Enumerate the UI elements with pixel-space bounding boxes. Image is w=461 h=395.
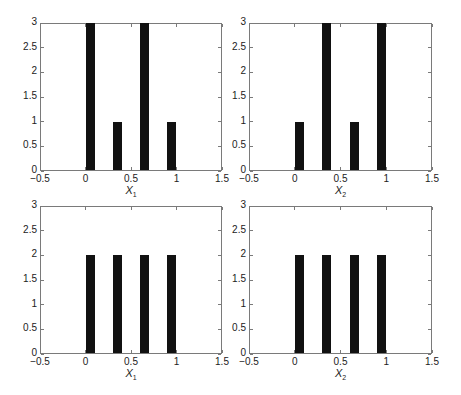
x-tick-mark [85, 350, 86, 353]
y-tick-mark [250, 23, 253, 24]
x-tick-label: 0.5 [326, 174, 356, 184]
histogram-bar [350, 122, 359, 170]
histogram-bar [113, 122, 122, 170]
y-tick-mark [428, 304, 431, 305]
x-tick-mark [432, 350, 433, 353]
y-tick-mark [428, 329, 431, 330]
y-tick-mark [41, 206, 44, 207]
y-tick-mark [250, 72, 253, 73]
x-tick-mark [294, 207, 295, 210]
y-tick-label: 0.5 [9, 140, 37, 150]
y-tick-label: 3 [9, 200, 37, 210]
x-tick-label: 0 [280, 174, 310, 184]
y-tick-mark [41, 23, 44, 24]
x-tick-mark [432, 24, 433, 27]
y-tick-mark [428, 255, 431, 256]
x-tick-mark [249, 207, 250, 210]
y-tick-label: 2.5 [9, 225, 37, 235]
y-tick-mark [41, 72, 44, 73]
y-tick-mark [41, 97, 44, 98]
y-tick-mark [41, 230, 44, 231]
axes-frame [40, 206, 222, 354]
axes-frame [249, 23, 432, 171]
histogram-bar [377, 255, 386, 353]
x-tick-mark [131, 24, 132, 27]
x-tick-label: 1.5 [207, 174, 237, 184]
x-axis-label-subscript: 1 [133, 191, 137, 198]
y-tick-label: 2.5 [218, 42, 246, 52]
y-tick-label: 0.5 [218, 323, 246, 333]
x-tick-mark [40, 207, 41, 210]
y-tick-mark [41, 255, 44, 256]
x-tick-mark [340, 167, 341, 170]
x-tick-label: −0.5 [25, 174, 55, 184]
x-tick-mark [432, 207, 433, 210]
y-tick-mark [428, 354, 431, 355]
x-tick-label: 1 [371, 357, 401, 367]
y-tick-label: 1.5 [218, 274, 246, 284]
x-tick-mark [294, 167, 295, 170]
x-tick-mark [176, 24, 177, 27]
x-axis-label: X1 [111, 367, 151, 381]
y-tick-label: 1.5 [218, 91, 246, 101]
x-tick-label: 1.5 [207, 357, 237, 367]
histogram-bar [167, 255, 176, 353]
x-tick-label: −0.5 [234, 357, 264, 367]
y-tick-label: 1 [9, 299, 37, 309]
y-tick-mark [428, 230, 431, 231]
y-tick-label: 2 [9, 66, 37, 76]
y-tick-label: 1 [218, 116, 246, 126]
histogram-bar [350, 255, 359, 353]
x-tick-label: 1 [162, 174, 192, 184]
x-tick-label: −0.5 [25, 357, 55, 367]
x-tick-mark [340, 350, 341, 353]
x-axis-label: X2 [321, 367, 361, 381]
x-tick-mark [249, 350, 250, 353]
y-tick-label: 0.5 [218, 140, 246, 150]
y-tick-mark [250, 280, 253, 281]
y-tick-mark [250, 230, 253, 231]
y-tick-mark [41, 146, 44, 147]
y-tick-label: 3 [218, 200, 246, 210]
y-tick-mark [428, 171, 431, 172]
y-tick-label: 2 [218, 66, 246, 76]
x-tick-mark [249, 167, 250, 170]
y-tick-mark [250, 206, 253, 207]
y-tick-label: 2.5 [9, 42, 37, 52]
x-tick-label: 0 [71, 174, 101, 184]
x-tick-mark [85, 24, 86, 27]
y-tick-mark [250, 171, 253, 172]
x-axis-label-subscript: 2 [342, 374, 346, 381]
histogram-bar [140, 23, 149, 170]
y-tick-label: 0.5 [9, 323, 37, 333]
x-tick-mark [85, 207, 86, 210]
y-tick-mark [250, 255, 253, 256]
y-tick-mark [428, 72, 431, 73]
y-tick-mark [41, 171, 44, 172]
x-tick-mark [40, 24, 41, 27]
x-axis-label-base: X [125, 184, 132, 196]
x-axis-label-base: X [125, 367, 132, 379]
x-axis-label: X2 [321, 184, 361, 198]
y-tick-mark [41, 280, 44, 281]
y-tick-label: 2.5 [218, 225, 246, 235]
y-tick-label: 1.5 [9, 274, 37, 284]
x-tick-mark [40, 167, 41, 170]
x-tick-mark [294, 350, 295, 353]
x-tick-mark [85, 167, 86, 170]
histogram-bar [377, 23, 386, 170]
x-tick-mark [386, 350, 387, 353]
histogram-bar [295, 122, 304, 170]
axes-frame [40, 23, 222, 171]
y-tick-label: 1.5 [9, 91, 37, 101]
x-tick-mark [386, 24, 387, 27]
x-tick-label: 0.5 [116, 357, 146, 367]
x-tick-mark [131, 167, 132, 170]
x-tick-mark [176, 167, 177, 170]
x-tick-label: 0.5 [326, 357, 356, 367]
y-tick-label: 2 [9, 249, 37, 259]
y-tick-mark [41, 329, 44, 330]
x-tick-mark [432, 167, 433, 170]
y-tick-mark [250, 47, 253, 48]
histogram-bar [86, 23, 95, 170]
